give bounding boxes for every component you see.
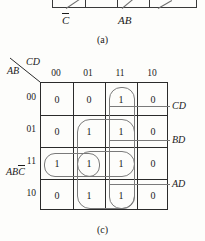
kmap-cell: 0 — [137, 115, 169, 147]
column-header: 01 — [72, 68, 104, 78]
caption-c: (c) — [0, 224, 205, 235]
label-abc-complement: ABC — [6, 166, 25, 177]
grid-line-vertical — [149, 0, 150, 7]
kmap-cell: 1 — [105, 115, 137, 147]
kmap-cell: 1 — [105, 83, 137, 115]
label-ab: AB — [118, 14, 131, 26]
axis-label-ab: AB — [7, 65, 19, 76]
leader-line-ad — [110, 184, 170, 185]
column-header: 00 — [40, 68, 72, 78]
kmap-cell: 1 — [41, 147, 73, 179]
caption-a: (a) — [0, 34, 205, 45]
grid-line-vertical — [85, 0, 86, 7]
kmap-cell: 0 — [41, 179, 73, 211]
label-c-complement: C — [62, 14, 69, 26]
kmap-cell: 1 — [105, 147, 137, 179]
column-header: 11 — [104, 68, 136, 78]
figure-c-kmap: CD AB 00 01 11 10 00 01 11 10 ABC 0 0 1 … — [0, 56, 205, 241]
kmap-cell: 0 — [137, 147, 169, 179]
kmap-cell: 0 — [41, 83, 73, 115]
leader-line-bd — [110, 140, 170, 141]
row-header: 00 — [18, 92, 36, 102]
figure-a-fragment: C AB (a) — [0, 0, 205, 52]
group-label-cd: CD — [172, 100, 186, 111]
kmap-cell: 1 — [73, 115, 105, 147]
grid-line-vertical — [117, 0, 118, 7]
row-header: 10 — [18, 188, 36, 198]
leader-line-cd — [110, 106, 170, 107]
kmap-cell: 0 — [41, 115, 73, 147]
group-label-ad: AD — [172, 178, 185, 189]
kmap-cell: 0 — [137, 83, 169, 115]
kmap-cell: 1 — [73, 147, 105, 179]
column-header: 10 — [136, 68, 168, 78]
row-header: 01 — [18, 124, 36, 134]
kmap-grid: 0 0 1 0 0 1 1 0 1 1 1 0 0 1 1 0 — [40, 82, 168, 210]
kmap-cell: 0 — [73, 83, 105, 115]
kmap-cell: 1 — [73, 179, 105, 211]
group-label-bd: BD — [172, 134, 185, 145]
axis-label-cd: CD — [26, 56, 40, 67]
